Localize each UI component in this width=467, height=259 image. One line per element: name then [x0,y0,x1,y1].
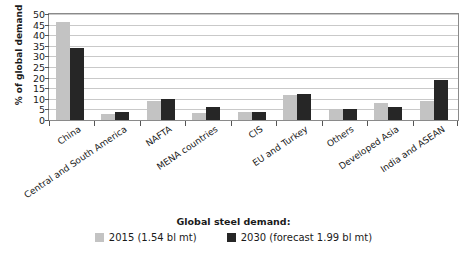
bar [147,101,161,120]
legend-entries: 2015 (1.54 bl mt)2030 (forecast 1.99 bl … [0,232,467,243]
legend-title: Global steel demand: [0,216,467,227]
bar-group [94,14,139,120]
bar-group [367,14,412,120]
bar [374,103,388,120]
bar [343,109,357,120]
x-axis-tick-label: Others [325,124,356,149]
bar-group [413,14,458,120]
bar [115,112,129,120]
bar [101,114,115,120]
bar-group [276,14,321,120]
bar [238,112,252,120]
x-axis-tick-label: China [56,124,83,147]
bar [56,22,70,120]
legend-swatch-icon [227,233,236,242]
y-axis-tick-label: 10 [25,94,45,103]
x-axis-tick-labels: ChinaCentral and South AmericaNAFTAMENA … [0,124,467,219]
bar-group [140,14,185,120]
y-axis-tick-label: 5 [25,105,45,114]
bar [192,113,206,120]
bar [70,48,84,120]
y-axis-tick-labels: 05101520253035404550 [21,13,45,121]
bars-layer [49,14,458,120]
bar [252,112,266,120]
y-axis-tick-label: 35 [25,41,45,50]
bar [297,94,311,121]
y-axis-tick-label: 20 [25,73,45,82]
y-axis-tick-label: 40 [25,31,45,40]
y-axis-tick-label: 50 [25,10,45,19]
legend-item: 2015 (1.54 bl mt) [95,232,197,243]
y-axis-tick-label: 45 [25,20,45,29]
y-axis-tick-label: 30 [25,52,45,61]
bar [388,107,402,120]
y-axis-tick-label: 15 [25,84,45,93]
bar-group [322,14,367,120]
bar-group [185,14,230,120]
x-axis-tick-label: CIS [247,124,265,140]
bar [329,109,343,120]
bar-group [231,14,276,120]
legend-label: 2030 (forecast 1.99 bl mt) [241,232,372,243]
bar [283,95,297,120]
legend-swatch-icon [95,233,104,242]
bar [434,80,448,120]
legend-label: 2015 (1.54 bl mt) [109,232,197,243]
bar [420,101,434,120]
x-axis-tick-label: NAFTA [144,124,174,148]
legend-item: 2030 (forecast 1.99 bl mt) [227,232,372,243]
bar [161,99,175,120]
chart-legend: Global steel demand: 2015 (1.54 bl mt)20… [0,216,467,243]
bar-group [49,14,94,120]
bar [206,107,220,120]
bar-chart: % of global demand 05101520253035404550 … [0,0,467,259]
y-axis-tick-label: 25 [25,63,45,72]
